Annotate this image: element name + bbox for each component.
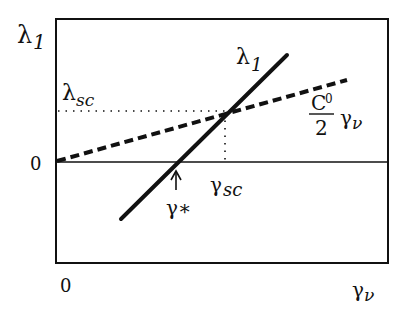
c0-half-gamma-label: C 0 2 γ ν — [309, 91, 362, 140]
lambda-sc-subscript: sc — [76, 90, 95, 110]
fraction-variable: γ — [340, 106, 352, 130]
fraction-variable-subscript: ν — [352, 113, 362, 133]
gamma-star-label: γ∗ — [166, 196, 192, 220]
lambda1-line-label: λ 1 — [236, 44, 262, 75]
y-zero-label: 0 — [30, 153, 41, 174]
gamma-sc-symbol: γ — [210, 173, 222, 197]
fraction-numerator-subscript: 0 — [325, 92, 333, 106]
lambda1-line-subscript: 1 — [251, 54, 262, 75]
y-axis-symbol: λ — [17, 21, 32, 49]
gamma-star-arrow-icon — [171, 171, 181, 190]
lambda-sc-label: λ sc — [62, 80, 95, 110]
lambda1-line-symbol: λ — [236, 44, 250, 69]
lambda-sc-symbol: λ — [62, 80, 76, 105]
fraction-denominator: 2 — [315, 116, 328, 140]
y-axis-subscript: 1 — [33, 30, 46, 54]
plot-frame — [56, 19, 388, 263]
diagram-canvas: λ 1 λ sc 0 0 λ 1 C 0 2 γ ν γ sc γ∗ γ ν — [0, 0, 406, 315]
gamma-sc-label: γ sc — [210, 173, 242, 200]
gamma-sc-subscript: sc — [223, 179, 242, 200]
x-origin-label: 0 — [60, 275, 71, 296]
y-axis-label: λ 1 — [17, 21, 46, 54]
x-axis-symbol: γ — [352, 278, 364, 302]
c0-half-gamma-dashed-line — [57, 80, 347, 161]
x-axis-subscript: ν — [364, 285, 374, 305]
x-axis-label: γ ν — [352, 278, 374, 305]
